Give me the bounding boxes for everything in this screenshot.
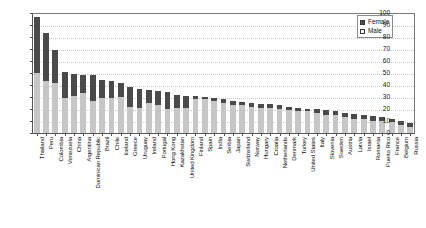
bar-group[interactable] [221,13,227,133]
bar-group[interactable] [333,13,339,133]
bar-segment-male [174,108,180,133]
bar-group[interactable] [211,13,217,133]
bar-group[interactable] [99,13,105,133]
x-tick [139,133,140,136]
bar-segment-female [127,87,133,106]
x-tick [186,133,187,136]
x-tick [345,133,346,136]
x-axis-label: India [217,137,223,149]
bar-group[interactable] [183,13,189,133]
bar-group[interactable] [277,13,283,133]
x-tick [111,133,112,136]
x-axis-label: Serbia [226,137,232,154]
x-axis-label: United States [310,137,316,172]
x-tick [149,133,150,136]
bar-group[interactable] [239,13,245,133]
x-tick [270,133,271,136]
bar-group[interactable] [109,13,115,133]
bar-segment-male [230,105,236,133]
bar-group[interactable] [127,13,133,133]
x-tick [280,133,281,136]
bar-segment-female [99,80,105,98]
x-tick [102,133,103,136]
bar-segment-male [323,115,329,133]
bar-segment-male [314,113,320,133]
bar-group[interactable] [305,13,311,133]
bar-segment-male [211,101,217,133]
bar-segment-male [43,81,49,133]
bar-group[interactable] [230,13,236,133]
bar-group[interactable] [118,13,124,133]
bar-group[interactable] [34,13,40,133]
y-tick-label: 20 [383,106,390,113]
x-tick [308,133,309,136]
x-tick [317,133,318,136]
bar-group[interactable] [314,13,320,133]
x-tick [261,133,262,136]
bar-group[interactable] [407,13,413,133]
bar-group[interactable] [295,13,301,133]
bar-segment-male [239,105,245,133]
legend-swatch-female [360,20,365,25]
bar-group[interactable] [174,13,180,133]
bar-segment-male [398,125,404,133]
bar-segment-male [118,97,124,133]
bar-segment-male [305,111,311,133]
bar-group[interactable] [258,13,264,133]
bar-segment-female [118,83,124,97]
x-tick [37,133,38,136]
bar-segment-female [155,91,161,105]
x-axis-label: Iceland [123,137,129,156]
x-axis-label: Brazil [104,137,110,151]
x-tick [130,133,131,136]
x-tick [65,133,66,136]
bar-group[interactable] [146,13,152,133]
bar-group[interactable] [90,13,96,133]
x-tick [121,133,122,136]
bar-segment-male [183,108,189,133]
bar-group[interactable] [165,13,171,133]
bar-group[interactable] [249,13,255,133]
bar-group[interactable] [202,13,208,133]
x-tick [55,133,56,136]
x-axis-label: Chile [114,137,120,150]
bar-group[interactable] [43,13,49,133]
x-tick [336,133,337,136]
x-tick [167,133,168,136]
x-axis-label: Uruguay [142,137,148,159]
x-tick [177,133,178,136]
x-tick [373,133,374,136]
y-tick-label: 30 [383,94,390,101]
bar-group[interactable] [267,13,273,133]
x-tick [224,133,225,136]
bar-segment-female [146,90,152,103]
bar-segment-male [361,119,367,133]
bar-group[interactable] [80,13,86,133]
bar-group[interactable] [398,13,404,133]
bar-group[interactable] [155,13,161,133]
bar-segment-male [249,107,255,133]
bar-segment-male [351,119,357,133]
bar-group[interactable] [71,13,77,133]
bar-segment-female [71,74,77,96]
x-axis-label: Croatia [273,137,279,156]
bar-group[interactable] [193,13,199,133]
bar-group[interactable] [62,13,68,133]
bar-segment-male [202,99,208,133]
y-tick-label: 40 [383,82,390,89]
bar-group[interactable] [52,13,58,133]
y-tick-label: 80 [383,34,390,41]
x-tick [392,133,393,136]
bar-segment-male [155,105,161,133]
x-tick [158,133,159,136]
bar-segment-female [80,75,86,93]
bar-group[interactable] [323,13,329,133]
bar-segment-male [193,99,199,133]
bar-segment-female [52,50,58,82]
bar-group[interactable] [342,13,348,133]
bar-segment-male [342,117,348,133]
bar-segment-male [71,96,77,133]
bar-group[interactable] [286,13,292,133]
bar-group[interactable] [137,13,143,133]
bar-segment-male [277,109,283,133]
